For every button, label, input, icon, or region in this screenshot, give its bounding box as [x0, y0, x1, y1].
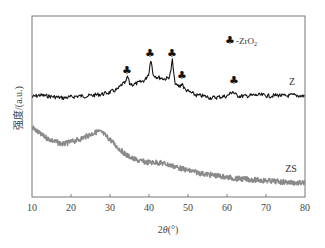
legend-label: -ZrO2	[236, 36, 257, 47]
y-axis-label: 强度/(a.u.)	[12, 86, 25, 130]
tick-label: 20	[66, 202, 76, 213]
series-label-zs: ZS	[285, 163, 297, 174]
tick-label: 70	[261, 202, 271, 213]
club-icon: ♣	[122, 64, 132, 77]
club-icon: ♣	[167, 47, 177, 60]
xrd-chart: 10 20 30 40 50 60 70 80 2θ(°) 强度/(a.u.) …	[0, 0, 325, 248]
club-icon: ♣	[225, 34, 235, 47]
tick-label: 40	[144, 202, 154, 213]
club-icon: ♣	[145, 47, 155, 60]
club-icon: ♣	[229, 74, 239, 87]
series-zs-line	[32, 126, 305, 185]
legend: ♣ -ZrO2	[225, 34, 257, 47]
series-z-line	[32, 59, 304, 100]
tick-label: 30	[105, 202, 115, 213]
series-label-z: Z	[289, 76, 295, 87]
club-icon: ♣	[177, 69, 187, 82]
tick-label: 80	[300, 202, 310, 213]
x-axis-label: 2θ(°)	[158, 224, 179, 236]
x-axis-tick-labels: 10 20 30 40 50 60 70 80	[27, 202, 310, 213]
tick-label: 60	[222, 202, 232, 213]
tick-label: 50	[183, 202, 193, 213]
plot-frame	[32, 16, 305, 197]
tick-label: 10	[27, 202, 37, 213]
